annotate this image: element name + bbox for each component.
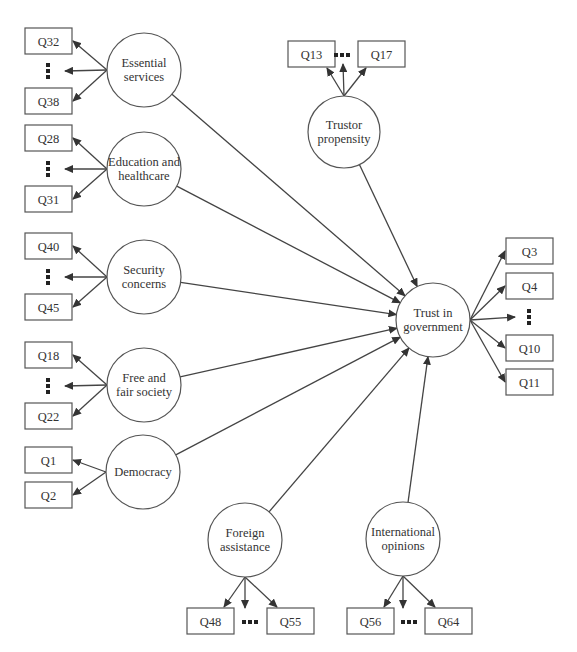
indicator-q64: Q64 [425,608,472,634]
indicator-label: Q18 [38,349,60,363]
path-free-fair-to-trust [180,328,397,377]
indicator-q11: Q11 [506,369,553,395]
indicator-label: Q38 [38,95,60,109]
indicator-q55: Q55 [267,608,314,634]
indicator-q4: Q4 [506,273,553,299]
loading-q2 [73,472,106,495]
construct-international: Internationalopinions [366,502,440,576]
construct-education-label: healthcare [118,169,170,183]
indicator-label: Q28 [38,132,60,146]
loading-q31 [73,169,107,199]
ellipsis-icon [334,53,350,57]
loading-ellipsis [343,64,344,96]
ellipsis-icon [46,161,50,177]
indicator-label: Q55 [280,615,302,629]
indicator-label: Q48 [200,615,222,629]
construct-international-label: International [371,525,435,539]
construct-democracy: Democracy [106,435,180,509]
loading-q40 [73,246,107,277]
loading-q11 [470,320,505,382]
ellipsis-icon [46,378,50,394]
indicator-q40: Q40 [25,233,72,259]
construct-security-label: concerns [122,277,167,291]
loading-ellipsis [65,70,107,71]
indicator-label: Q22 [38,410,60,424]
construct-trustor-label: Trustor [326,118,363,132]
path-security-to-trust [181,282,397,314]
indicator-label: Q4 [522,280,538,294]
loading-q38 [73,70,107,101]
ellipsis-icon [242,620,258,624]
indicator-q1: Q1 [25,447,72,473]
construct-trust-in-government-label: Trust in [414,306,454,320]
indicator-q2: Q2 [25,482,72,508]
indicator-label: Q13 [301,48,323,62]
indicator-q28: Q28 [25,125,72,151]
construct-education-label: Education and [108,155,181,169]
indicator-q32: Q32 [25,28,72,54]
indicator-q18: Q18 [25,342,72,368]
loading-q28 [73,138,107,169]
construct-essential-label: services [124,70,164,84]
indicator-label: Q1 [41,454,56,468]
ellipsis-icon [46,269,50,285]
construct-foreign-label: Foreign [226,526,266,540]
path-democracy-to-trust [176,337,400,455]
path-education-to-trust [177,186,400,303]
indicator-q22: Q22 [25,403,72,429]
indicator-label: Q45 [38,301,60,315]
construct-democracy-label: Democracy [114,465,172,479]
indicator-label: Q17 [371,48,393,62]
construct-security-label: Security [123,263,165,277]
indicator-label: Q3 [522,245,537,259]
loading-q32 [73,41,107,70]
indicator-q38: Q38 [25,88,72,114]
ellipsis-icon [401,620,417,624]
indicator-label: Q10 [519,342,541,356]
loading-q17 [344,68,366,96]
indicator-q17: Q17 [358,41,405,67]
construct-education: Education andhealthcare [107,132,181,206]
construct-trust-in-government: Trust ingovernment [396,283,470,357]
ellipsis-icon [46,63,50,79]
construct-essential-label: Essential [121,56,167,70]
indicator-q10: Q10 [506,335,553,361]
indicator-label: Q2 [41,489,56,503]
indicator-q3: Q3 [506,238,553,264]
loading-q56 [384,576,403,607]
path-trustor-to-trust [359,165,417,287]
construct-foreign-label: assistance [220,540,270,554]
loading-q3 [470,251,505,320]
construct-international-label: opinions [381,539,424,553]
path-international-to-trust [408,357,428,503]
loading-q18 [73,355,107,385]
path-foreign-to-trust [269,348,409,512]
loading-q45 [73,277,107,307]
loading-q55 [245,577,277,607]
construct-essential: Essentialservices [107,33,181,107]
indicator-label: Q56 [360,615,382,629]
construct-free-fair-label: Free and [122,371,166,385]
ellipsis-icon [527,309,531,325]
sem-diagram: EssentialservicesQ32Q38Education andheal… [0,0,577,652]
construct-foreign: Foreignassistance [208,503,282,577]
indicator-q13: Q13 [288,41,335,67]
indicator-q56: Q56 [347,608,394,634]
construct-security: Securityconcerns [107,240,181,314]
loading-q4 [470,286,505,320]
loading-ellipsis [470,317,515,320]
construct-trustor: Trustorpropensity [308,96,380,168]
loading-q1 [73,460,106,472]
loading-ellipsis [65,385,107,386]
construct-free-fair-label: fair society [116,385,173,399]
indicator-label: Q64 [438,615,460,629]
indicator-label: Q31 [38,193,60,207]
indicator-label: Q32 [38,35,60,49]
indicator-label: Q11 [519,376,540,390]
loading-q10 [470,320,505,348]
loading-q48 [224,577,245,607]
construct-free-fair: Free andfair society [107,348,181,422]
indicator-label: Q40 [38,240,60,254]
indicator-q48: Q48 [187,608,234,634]
nodes-layer: EssentialservicesQ32Q38Education andheal… [25,28,553,634]
